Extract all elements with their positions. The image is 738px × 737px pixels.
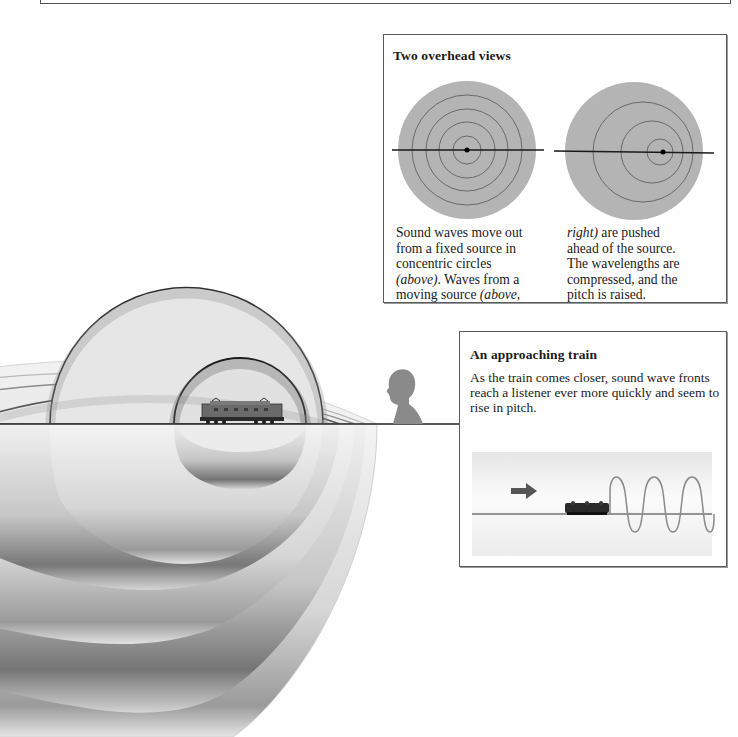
source-dot — [661, 150, 666, 155]
moving-source-diagram — [554, 82, 714, 220]
overhead-panel-title: Two overhead views — [393, 48, 511, 64]
fixed-source-diagram — [392, 81, 544, 219]
person-silhouette-icon — [387, 369, 423, 424]
moving-source-caption: right) are pushed ahead of the source. T… — [567, 225, 727, 303]
source-dot — [465, 148, 470, 153]
fixed-source-caption: Sound waves move out from a fixed source… — [396, 225, 556, 303]
approaching-train-diagram — [460, 332, 728, 568]
approaching-train-panel: An approaching train As the train comes … — [459, 331, 727, 567]
locomotive-icon — [565, 501, 609, 515]
overhead-views-panel: Two overhead views Sound waves move out … — [383, 34, 727, 303]
upper-wave-fronts — [0, 288, 377, 431]
lower-wave-fronts — [0, 424, 377, 737]
